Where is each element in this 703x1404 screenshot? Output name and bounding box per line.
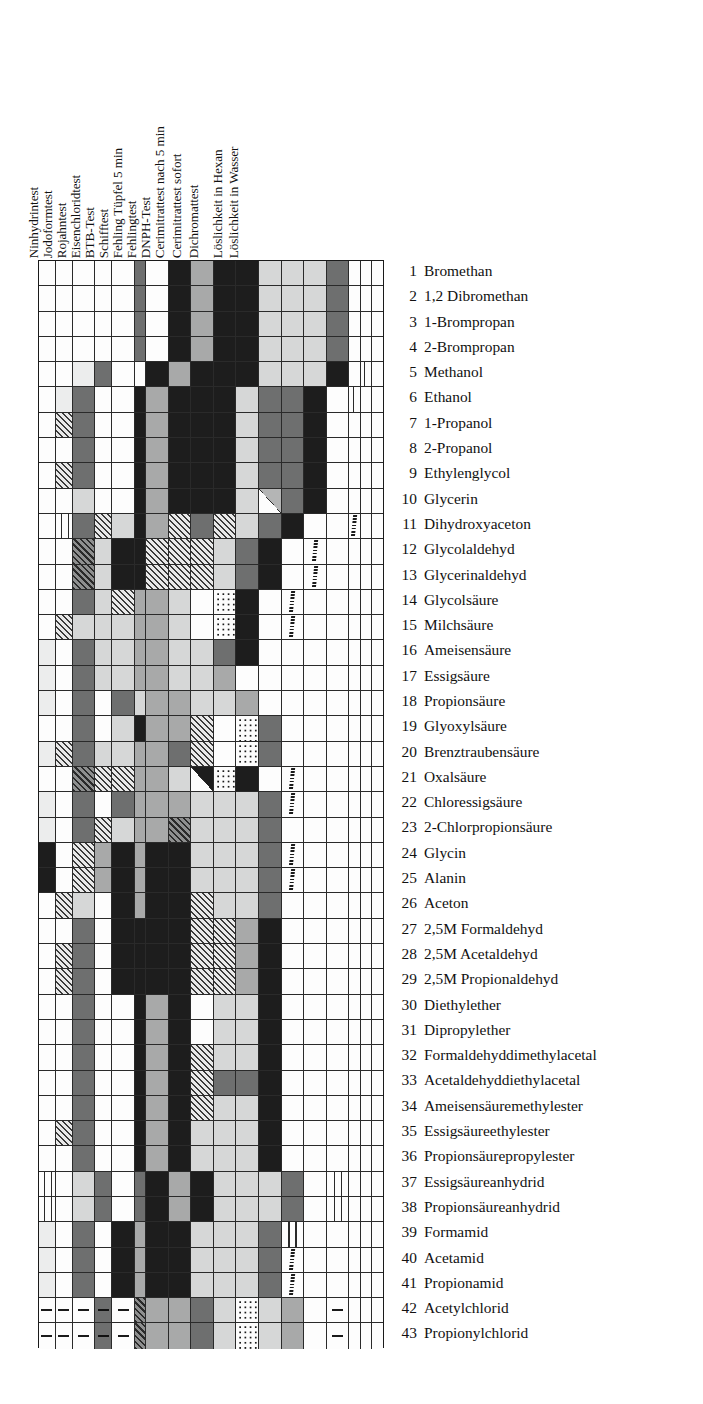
matrix-cell <box>73 565 96 590</box>
matrix-cell <box>56 843 73 868</box>
matrix-cell <box>361 261 372 286</box>
list-item-label: Brenztraubensäure <box>424 744 703 759</box>
matrix-cell <box>214 312 237 337</box>
list-item: 22Chloressigsäure <box>393 789 703 814</box>
matrix-cell <box>214 893 237 918</box>
matrix-cell <box>169 767 192 792</box>
matrix-cell <box>112 1020 135 1045</box>
matrix-cell <box>214 944 237 969</box>
matrix-cell <box>95 818 112 843</box>
matrix-cell <box>135 995 146 1020</box>
matrix-cell <box>191 312 214 337</box>
matrix-cell <box>191 995 214 1020</box>
matrix-cell <box>304 716 327 741</box>
matrix-cell <box>236 362 259 387</box>
matrix-cell <box>95 944 112 969</box>
matrix-cell <box>282 716 305 741</box>
matrix-cell <box>112 413 135 438</box>
matrix-cell <box>304 1096 327 1121</box>
matrix-cell <box>282 565 305 590</box>
matrix-cell <box>146 995 169 1020</box>
matrix-cell <box>39 995 56 1020</box>
matrix-row <box>39 312 383 337</box>
matrix-row <box>39 1323 383 1348</box>
matrix-cell <box>169 463 192 488</box>
matrix-cell <box>361 1172 372 1197</box>
matrix-cell <box>112 640 135 665</box>
matrix-cell <box>214 514 237 539</box>
matrix-cell <box>349 1248 360 1273</box>
matrix-cell <box>95 640 112 665</box>
matrix-cell <box>361 1020 372 1045</box>
matrix-cell <box>56 919 73 944</box>
matrix-cell <box>146 1146 169 1171</box>
matrix-cell <box>236 261 259 286</box>
matrix-cell <box>95 286 112 311</box>
matrix-cell <box>112 565 135 590</box>
matrix-cell <box>304 387 327 412</box>
matrix-cell <box>259 742 282 767</box>
matrix-cell <box>372 995 383 1020</box>
matrix-cell <box>304 261 327 286</box>
matrix-cell <box>236 337 259 362</box>
matrix-cell <box>282 666 305 691</box>
matrix-cell <box>304 919 327 944</box>
list-item: 13Glycerinaldehyd <box>393 562 703 587</box>
matrix-cell <box>112 969 135 994</box>
matrix-cell <box>112 919 135 944</box>
matrix-cell <box>259 261 282 286</box>
matrix-cell <box>304 1298 327 1323</box>
matrix-cell <box>214 1121 237 1146</box>
matrix-cell <box>372 716 383 741</box>
matrix-cell <box>146 843 169 868</box>
matrix-cell <box>191 590 214 615</box>
matrix-cell <box>112 261 135 286</box>
matrix-cell <box>191 387 214 412</box>
list-item: 1Bromethan <box>393 258 703 283</box>
matrix-row <box>39 387 383 412</box>
matrix-cell <box>169 438 192 463</box>
matrix-cell <box>146 1248 169 1273</box>
matrix-cell <box>372 640 383 665</box>
column-header-7: Fehling Tüpfel 5 min <box>111 8 124 258</box>
list-item-label: Chloressigsäure <box>424 794 703 809</box>
matrix-cell <box>372 1197 383 1222</box>
matrix-cell <box>73 1172 96 1197</box>
list-item-number: 4 <box>393 339 417 354</box>
matrix-cell <box>282 463 305 488</box>
list-item-label: Dipropylether <box>424 1022 703 1037</box>
list-item-label: Glycolsäure <box>424 592 703 607</box>
matrix-cell <box>191 514 214 539</box>
matrix-cell <box>146 868 169 893</box>
matrix-row <box>39 286 383 311</box>
matrix-cell <box>327 463 350 488</box>
matrix-cell <box>146 1172 169 1197</box>
matrix-cell <box>146 261 169 286</box>
matrix-cell <box>135 565 146 590</box>
matrix-cell <box>39 640 56 665</box>
matrix-cell <box>282 919 305 944</box>
column-header-6: Schifftest <box>97 8 110 258</box>
list-item-label: 1-Propanol <box>424 415 703 430</box>
matrix-cell <box>73 312 96 337</box>
matrix-cell <box>282 615 305 640</box>
matrix-cell <box>372 792 383 817</box>
matrix-cell <box>361 1248 372 1273</box>
list-item-number: 20 <box>393 744 417 759</box>
matrix-cell <box>214 1273 237 1298</box>
matrix-cell <box>169 1045 192 1070</box>
matrix-cell <box>304 590 327 615</box>
list-item-label: Propionsäureanhydrid <box>424 1199 703 1214</box>
list-item-number: 17 <box>393 668 417 683</box>
matrix-cell <box>112 716 135 741</box>
matrix-cell <box>191 1323 214 1348</box>
matrix-row <box>39 1121 383 1146</box>
matrix-cell <box>191 337 214 362</box>
matrix-cell <box>304 362 327 387</box>
matrix-cell <box>191 969 214 994</box>
matrix-cell <box>112 337 135 362</box>
list-item-label: 2,5M Acetaldehyd <box>424 946 703 961</box>
matrix-cell <box>73 716 96 741</box>
list-item: 12Glycolaldehyd <box>393 536 703 561</box>
matrix-cell <box>95 387 112 412</box>
